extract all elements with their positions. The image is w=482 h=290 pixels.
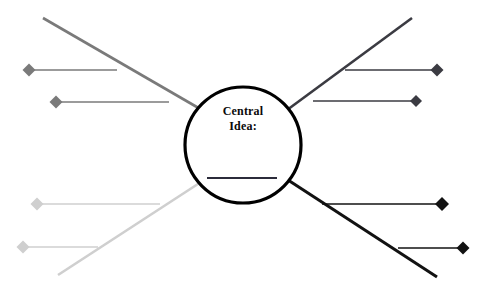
upper-left-branch-2-diamond-marker [50, 96, 63, 109]
upper-left-branch-1-diamond-marker [23, 64, 36, 77]
lower-right-spoke [288, 180, 437, 277]
lower-left-branch-1-diamond-marker [31, 198, 44, 211]
upper-left-spoke [43, 18, 202, 110]
central-idea-circle[interactable] [185, 87, 301, 203]
lower-left-spoke [58, 182, 201, 275]
upper-right-branch-2-diamond-marker [410, 95, 422, 107]
lower-right-spoke-group [288, 180, 470, 277]
upper-right-spoke-group [287, 18, 444, 110]
graphic-organizer-canvas: Central Idea: [0, 0, 482, 290]
lower-right-branch-2-diamond-marker [457, 242, 470, 255]
lower-right-branch-1-diamond-marker [435, 197, 449, 211]
upper-right-branch-1-diamond-marker [431, 64, 444, 77]
concept-web-diagram [0, 0, 482, 290]
lower-left-branch-2-diamond-marker [17, 241, 30, 254]
lower-left-spoke-group [17, 182, 202, 275]
upper-right-spoke [287, 18, 412, 110]
upper-left-spoke-group [23, 18, 203, 110]
